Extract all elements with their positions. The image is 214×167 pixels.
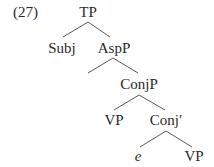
edge-conjp-vp [114, 95, 139, 110]
node-conjp: ConjP [120, 77, 158, 92]
node-aspp: AspP [98, 41, 131, 56]
node-vp-right: VP [184, 149, 203, 164]
node-tp: TP [79, 5, 97, 20]
node-subj: Subj [48, 41, 76, 56]
node-conj-bar: Conj′ [150, 113, 182, 128]
edge-conjbar-vp [166, 131, 192, 147]
edge-tp-subj [63, 22, 88, 37]
node-vp-left: VP [104, 113, 123, 128]
edge-aspp-empty [88, 58, 113, 73]
node-e-empty: e [135, 149, 142, 164]
edge-tp-aspp [88, 22, 110, 37]
edge-aspp-conjp [113, 58, 138, 73]
edge-conjp-conjbar [139, 95, 165, 110]
edge-conjbar-e [140, 131, 166, 147]
tree-edges [0, 0, 214, 167]
